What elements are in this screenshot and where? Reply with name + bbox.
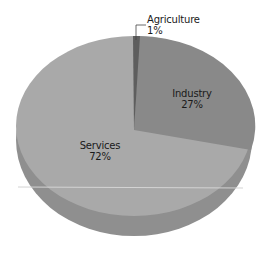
industry-value: 27% (164, 99, 220, 110)
industry-label: Industry 27% (164, 88, 220, 110)
services-label: Services 72% (70, 140, 130, 162)
services-value: 72% (70, 151, 130, 162)
pie-chart (0, 0, 266, 255)
agriculture-label: Agriculture 1% (147, 14, 200, 36)
industry-name: Industry (164, 88, 220, 99)
agriculture-name: Agriculture (147, 14, 200, 25)
services-name: Services (70, 140, 130, 151)
agriculture-value: 1% (147, 25, 200, 36)
